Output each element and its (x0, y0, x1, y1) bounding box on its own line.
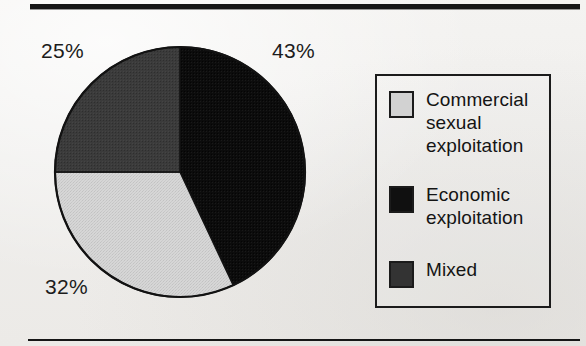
bottom-horizontal-rule (28, 339, 580, 341)
pie-chart (55, 47, 305, 297)
legend-label-mixed: Mixed (426, 258, 477, 281)
figure-canvas: 43% 25% 32% Commercial sexual exploitati… (0, 0, 586, 346)
legend-item-commercial-sexual-exploitation: Commercial sexual exploitation (389, 88, 528, 157)
legend-label-commercial-sexual-exploitation: Commercial sexual exploitation (426, 88, 528, 157)
legend-swatch-commercial-sexual-exploitation (389, 91, 414, 118)
pie-chart-svg (55, 47, 305, 297)
pie-label-commercial-sexual-exploitation: 32% (45, 275, 88, 299)
legend-item-economic-exploitation: Economic exploitation (389, 183, 523, 229)
pie-label-mixed: 25% (41, 39, 84, 63)
legend-label-economic-exploitation: Economic exploitation (426, 183, 523, 229)
pie-slice-mixed (55, 47, 180, 172)
top-horizontal-rule (30, 4, 580, 9)
pie-label-economic-exploitation: 43% (272, 39, 315, 63)
legend-swatch-economic-exploitation (389, 186, 414, 213)
legend-swatch-mixed (389, 261, 414, 288)
chart-legend: Commercial sexual exploitation Economic … (375, 74, 551, 308)
legend-item-mixed: Mixed (389, 258, 477, 288)
